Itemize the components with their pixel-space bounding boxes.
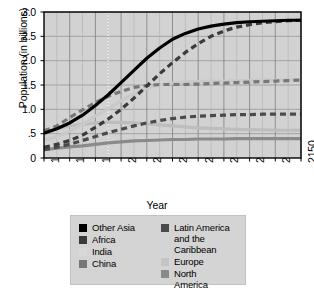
legend-label: Other Asia xyxy=(92,222,135,233)
legend-label: NorthAmerica xyxy=(174,268,208,290)
legend-swatch-europe xyxy=(161,258,169,266)
legend-label: China xyxy=(92,258,116,269)
legend-label: Africa xyxy=(92,234,115,245)
legend-label-line2: and the Caribbean xyxy=(174,233,247,255)
population-projection-chart: Population (in billions) 0.51.01.52.02.5… xyxy=(0,0,314,293)
legend-item: Europe xyxy=(161,256,247,267)
legend-item: Other Asia xyxy=(79,222,155,233)
legend-swatch-china xyxy=(79,260,87,268)
legend-label: India xyxy=(92,246,112,257)
legend-swatch-africa xyxy=(79,236,87,244)
legend-swatch-other-asia xyxy=(79,224,87,232)
legend-label: Latin Americaand the Caribbean xyxy=(174,222,247,255)
legend-column-right: Latin Americaand the CaribbeanEuropeNort… xyxy=(161,222,247,291)
legend-item: NorthAmerica xyxy=(161,268,247,290)
x-axis-label: Year xyxy=(0,199,314,211)
legend-swatch-north-america xyxy=(161,270,169,278)
legend-item: China xyxy=(79,258,155,269)
legend-swatch-india xyxy=(79,248,87,256)
legend-item: India xyxy=(79,246,155,257)
chart-legend: Other AsiaAfricaIndiaChina Latin America… xyxy=(70,215,246,285)
legend-label: Europe xyxy=(174,256,204,267)
legend-item: Africa xyxy=(79,234,155,245)
legend-column-left: Other AsiaAfricaIndiaChina xyxy=(79,222,155,270)
legend-item: Latin Americaand the Caribbean xyxy=(161,222,247,255)
legend-swatch-latin-america xyxy=(161,224,169,232)
legend-label-line2: America xyxy=(174,279,208,290)
